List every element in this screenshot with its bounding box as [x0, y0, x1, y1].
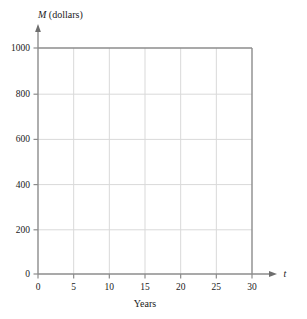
x-tick-label-5: 5: [71, 282, 76, 292]
x-axis-caption: Years: [134, 298, 156, 309]
chart-figure: 0 200 400 600 800 1000 0 5 10 15 20 25 3…: [0, 0, 307, 319]
y-axis-title: M (dollars): [37, 9, 83, 21]
coordinate-grid-chart: 0 200 400 600 800 1000 0 5 10 15 20 25 3…: [0, 0, 307, 319]
y-axis-unit: (dollars): [46, 9, 82, 21]
y-tick-label-0: 0: [25, 269, 30, 279]
x-tick-label-25: 25: [212, 282, 222, 292]
x-tick-label-15: 15: [140, 282, 150, 292]
y-tick-label-400: 400: [16, 180, 31, 190]
x-tick-label-30: 30: [247, 282, 257, 292]
x-axis-arrow-icon: [269, 271, 277, 277]
x-tick-label-0: 0: [36, 282, 41, 292]
x-axis-variable: t: [284, 268, 287, 279]
y-axis-arrow-icon: [35, 24, 41, 32]
y-tick-label-1000: 1000: [11, 43, 30, 53]
y-tick-label-200: 200: [16, 225, 31, 235]
y-tick-label-800: 800: [16, 89, 31, 99]
x-tick-label-20: 20: [176, 282, 186, 292]
x-tick-label-10: 10: [105, 282, 115, 292]
y-tick-label-600: 600: [16, 134, 31, 144]
